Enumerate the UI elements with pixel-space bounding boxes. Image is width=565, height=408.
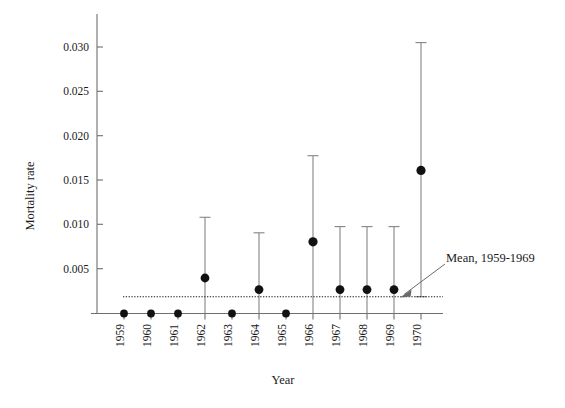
data-point-1966 — [308, 237, 317, 246]
x-tick-label-1962: 1962 — [195, 324, 207, 347]
x-tick-label-1966: 1966 — [303, 324, 315, 347]
x-tick-label-1968: 1968 — [357, 324, 369, 347]
y-tick-label: 0.025 — [63, 85, 89, 97]
data-point-1964 — [255, 285, 264, 294]
y-axis-title: Mortality rate — [23, 161, 37, 231]
data-point-1967 — [336, 285, 345, 294]
mortality-rate-scatter-chart: 0.030 0.025 0.020 0.015 0.010 0.005 Mort… — [0, 0, 565, 408]
x-tick-label-1959: 1959 — [114, 324, 126, 347]
data-point-1959 — [120, 310, 128, 318]
x-tick-label-1967: 1967 — [330, 324, 342, 347]
x-tick-label-1970: 1970 — [411, 324, 423, 347]
x-tick-label-1964: 1964 — [249, 324, 261, 347]
y-tick-label: 0.015 — [63, 174, 89, 186]
data-point-1960 — [147, 310, 155, 318]
data-point-1969 — [390, 285, 399, 294]
data-point-1963 — [228, 310, 236, 318]
x-tick-label-1965: 1965 — [276, 324, 288, 347]
data-point-1968 — [363, 285, 372, 294]
y-tick-label: 0.020 — [63, 130, 89, 142]
y-tick-label: 0.030 — [63, 41, 89, 53]
x-tick-label-1961: 1961 — [168, 324, 180, 347]
x-tick-label-1960: 1960 — [141, 324, 153, 347]
data-point-1962 — [201, 274, 210, 283]
x-tick-label-1969: 1969 — [384, 324, 396, 347]
data-point-1961 — [174, 310, 182, 318]
x-tick-label-1963: 1963 — [222, 324, 234, 347]
x-axis-title: Year — [271, 373, 295, 387]
data-point-1970 — [416, 166, 425, 175]
y-tick-label: 0.010 — [63, 218, 89, 230]
mean-annotation-label: Mean, 1959-1969 — [446, 251, 535, 265]
chart-figure: 0.030 0.025 0.020 0.015 0.010 0.005 Mort… — [0, 0, 565, 408]
data-point-1965 — [282, 310, 290, 318]
y-tick-label: 0.005 — [63, 263, 89, 275]
